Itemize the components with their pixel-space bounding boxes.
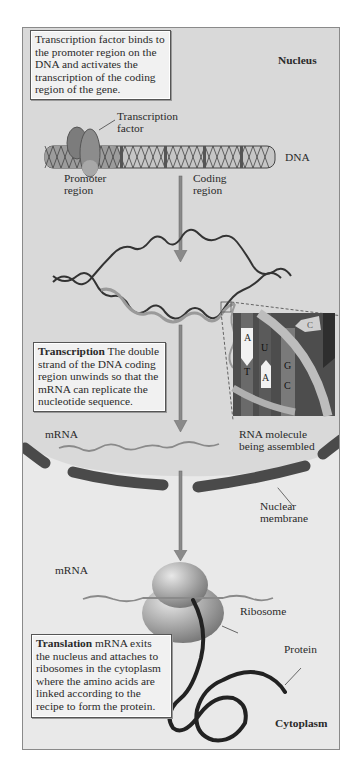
ribosome-shape — [83, 562, 273, 643]
free-nucleotide-c: C — [307, 319, 313, 332]
transcription-factor-label-line1: Transcription — [117, 110, 178, 123]
diagram-panel: Transcription factor binds to the promot… — [22, 27, 340, 750]
arrow-3 — [174, 471, 187, 561]
promoter-region-label-line1: Promoter — [64, 172, 106, 185]
translation-explanation-box: Translation mRNA exits the nucleus and a… — [31, 634, 172, 718]
nuclear-membrane-label-line2: membrane — [260, 512, 308, 525]
transcription-factor-explanation-box: Transcription factor binds to the promot… — [30, 30, 171, 100]
nucleus-label: Nucleus — [278, 54, 317, 67]
mrna-nucleus-label: mRNA — [45, 428, 78, 441]
protein-label: Protein — [284, 643, 317, 656]
base-t-dna: T — [244, 366, 250, 379]
dna-label: DNA — [285, 151, 310, 164]
coding-region-label-line2: region — [193, 184, 222, 197]
base-c: C — [284, 380, 291, 393]
mrna-cytoplasm-label: mRNA — [55, 564, 88, 577]
rna-molecule-label-line1: RNA molecule — [239, 428, 307, 441]
step1-text: Transcription factor binds to the promot… — [35, 33, 165, 95]
translation-title: Translation — [36, 637, 92, 649]
base-u-rna: U — [261, 342, 268, 355]
transcription-title: Transcription — [38, 345, 105, 357]
transcription-factor-label-line2: factor — [117, 122, 144, 135]
ribosome-label: Ribosome — [240, 605, 286, 618]
nuclear-membrane-label-line1: Nuclear — [260, 500, 296, 513]
rna-molecule-label-line2: being assembled — [239, 440, 315, 453]
promoter-region-label-line2: region — [64, 184, 93, 197]
base-a-rna: A — [262, 372, 269, 385]
coding-region-label-line1: Coding — [193, 172, 227, 185]
transcription-explanation-box: Transcription The double strand of the D… — [33, 342, 166, 412]
cytoplasm-label: Cytoplasm — [275, 717, 328, 730]
base-a-dna: A — [244, 332, 251, 345]
base-g: G — [284, 360, 291, 373]
